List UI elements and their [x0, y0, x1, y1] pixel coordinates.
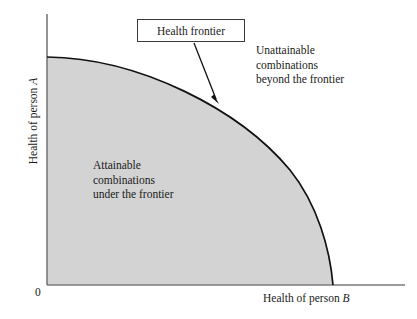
- health-frontier-figure: Health frontier Unattainable combination…: [0, 0, 417, 319]
- attainable-region-label: Attainable combinations under the fronti…: [93, 158, 233, 202]
- unattainable-region-label: Unattainable combinations beyond the fro…: [256, 43, 406, 87]
- y-axis-label-variable: A: [27, 78, 39, 85]
- x-axis-label-text: Health of person: [263, 292, 343, 304]
- health-frontier-callout-box: Health frontier: [137, 19, 245, 42]
- y-axis-label: Health of person A: [27, 41, 39, 201]
- y-axis-label-text: Health of person: [27, 85, 39, 165]
- health-frontier-callout-label: Health frontier: [157, 25, 225, 37]
- x-axis-label: Health of person B: [263, 292, 350, 304]
- x-axis-label-variable: B: [343, 292, 350, 304]
- callout-arrow-line: [194, 43, 216, 99]
- origin-label: 0: [35, 286, 41, 298]
